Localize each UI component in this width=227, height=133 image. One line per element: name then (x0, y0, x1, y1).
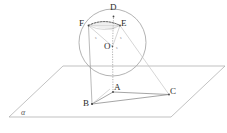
mark-label-s2: s (120, 36, 122, 40)
segment-fb (89, 26, 93, 105)
geometry-figure: D F E O A B C s s s α (0, 0, 227, 133)
mark-label-s3: s (116, 46, 118, 50)
point-d-dot (113, 16, 115, 18)
segment-ac (113, 92, 169, 95)
segment-bc (92, 95, 169, 105)
point-b-dot (91, 103, 93, 105)
point-label-c: C (170, 87, 176, 96)
segment-oa-axis (113, 47, 114, 93)
point-label-o: O (104, 42, 111, 51)
segment-od (113, 17, 114, 47)
point-label-d: D (110, 3, 117, 12)
point-f-dot (88, 25, 90, 27)
mark-label-s1: s (95, 36, 97, 40)
point-o-dot (112, 46, 114, 48)
plane-label-alpha: α (21, 109, 25, 117)
spherical-cap-fill (89, 22, 121, 31)
segment-ec (120, 26, 169, 95)
point-label-b: B (83, 99, 89, 108)
point-label-a: A (114, 83, 121, 92)
point-label-f: F (79, 19, 84, 28)
point-label-e: E (121, 19, 127, 28)
figure-canvas (0, 0, 227, 133)
